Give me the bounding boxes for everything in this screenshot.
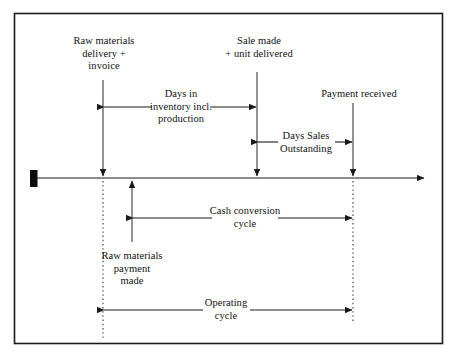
measure-label-operating-cycle: Operating cycle (195, 297, 257, 322)
cash-conversion-cycle-figure: Raw materials delivery + invoice Sale ma… (0, 0, 458, 359)
measure-label-days-in-inventory: Days in inventory incl. production (147, 88, 215, 126)
event-label-raw-materials-delivery: Raw materials delivery + invoice (48, 35, 160, 73)
measure-label-cash-conversion-cycle: Cash conversion cycle (200, 205, 290, 230)
timeline-start-marker (30, 170, 38, 187)
measure-label-days-sales-outstanding: Days Sales Outstanding (273, 130, 339, 155)
event-label-raw-materials-payment: Raw materials payment made (78, 250, 186, 288)
event-label-payment-received: Payment received (300, 88, 418, 101)
event-label-sale-made: Sale made + unit delivered (200, 35, 318, 60)
